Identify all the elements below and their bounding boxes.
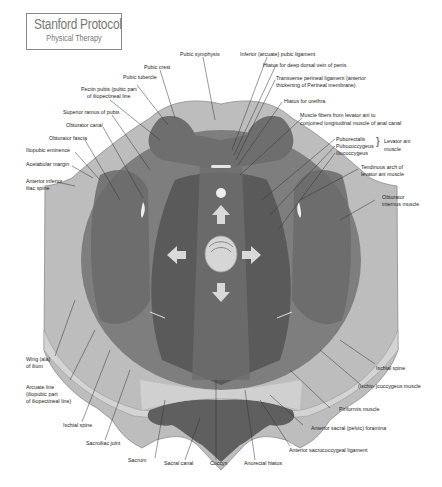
label-levator-ani-2: muscle <box>384 145 401 152</box>
label-arcuate-line-1: Arcuate line <box>26 383 54 390</box>
label-pubococcygeus: Pubococcygeus <box>336 142 374 149</box>
label-pubic-tubercle: Pubic tubercle <box>123 73 157 80</box>
label-anterior-inferior-iliac-1: Anterior inferior <box>26 177 62 184</box>
urethra-hiatus <box>211 165 231 168</box>
label-wing-ilium-1: Wing (ala) <box>26 355 50 362</box>
label-superior-ramus: Superior ramus of pubis <box>63 108 120 115</box>
label-hiatus-dorsal-vein: Hiatus for deep dorsal vein of penis <box>263 61 346 68</box>
label-tendinous-arch-1: Tendinous arch of <box>361 163 403 170</box>
label-inferior-pubic-ligament: Inferior (arcuate) pubic ligament <box>240 50 315 57</box>
label-pubic-crest: Pubic crest <box>144 63 170 70</box>
label-obturator-internus-2: internus muscle <box>382 200 419 207</box>
label-sacroiliac-joint: Sacroiliac joint <box>86 439 120 446</box>
label-levator-ani-1: Levator ani <box>384 137 410 144</box>
label-ischiococcygeus: (Ischio-)coccygeus muscle <box>358 382 421 389</box>
label-obturator-internus-1: Obturator <box>382 193 404 200</box>
brace-icon: } <box>376 138 380 145</box>
label-iliopubic-eminence: Iliopubic eminence <box>26 146 70 153</box>
label-muscle-fibers-1: Muscle fibers from levator ani to <box>300 111 375 118</box>
label-pubic-symphysis: Pubic symphysis <box>180 50 220 57</box>
label-anterior-inferior-iliac-2: iliac spine <box>26 184 49 191</box>
label-muscle-fibers-2: conjoined longitudinal muscle of anal ca… <box>300 119 401 126</box>
label-puborectalis: Puborectalis <box>336 135 365 142</box>
label-iliococcygeus: Iliococcygeus <box>336 149 368 156</box>
vagina-hiatus <box>216 188 226 198</box>
label-acetabular-margin: Acetabular margin <box>26 160 69 167</box>
obturator-right <box>292 170 351 324</box>
obturator-left <box>91 170 150 324</box>
label-transverse-perineal-2: thickening of Perineal membrane) <box>276 81 356 88</box>
label-ischial-spine-right: Ischial spine <box>376 364 405 371</box>
label-anorectal-hiatus: Anorectal hiatus <box>244 459 282 466</box>
label-sacral-canal: Sacral canal <box>164 459 193 466</box>
label-anterior-sacrococcygeal: Anterior sacrococcygeal ligament <box>289 446 367 453</box>
label-arcuate-line-3: of iliopectineal line) <box>26 397 71 404</box>
label-hiatus-urethra: Hiatus for urethra <box>284 97 325 104</box>
label-pectin-pubis-1: Pectin pubis (pubic part <box>81 85 137 92</box>
label-ischial-spine-left: Ischial spine <box>63 421 92 428</box>
label-coccyx: Coccyx <box>210 459 227 466</box>
label-pectin-pubis-2: of iliopectineal line <box>87 92 130 99</box>
label-obturator-canal: Obturator canal <box>66 121 103 128</box>
label-arcuate-line-2: (iliopubic part <box>26 390 58 397</box>
pelvic-floor-illustration <box>0 0 442 487</box>
label-piriformis: Piriformis muscle <box>339 405 380 412</box>
label-transverse-perineal-1: Transverse perineal ligament (anterior <box>276 74 366 81</box>
label-anterior-sacral-foramina: Anterior sacral (pelvic) foramina <box>311 424 386 431</box>
label-wing-ilium-2: of ilium <box>26 362 43 369</box>
label-tendinous-arch-2: levator ani muscle <box>361 170 404 177</box>
label-sacrum: Sacrum <box>128 456 146 463</box>
label-obturator-fascia: Obturator fascia <box>49 134 87 141</box>
